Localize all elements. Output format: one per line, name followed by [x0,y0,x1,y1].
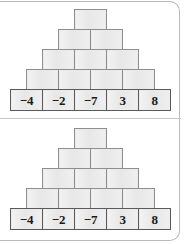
pyramid-1-row-1 [0,9,181,30]
exercise-panel-1: −4 −2 −7 3 8 [0,0,181,118]
pyramid-base-cell[interactable]: 3 [106,208,139,230]
pyramid-cell[interactable] [26,69,59,91]
pyramid-cell[interactable] [58,29,91,51]
pyramid-base-cell-value: 3 [119,213,125,226]
pyramid-cell[interactable] [122,69,155,91]
pyramid-cell[interactable] [90,69,123,91]
pyramid-base-cell[interactable]: −2 [42,208,75,230]
pyramid-cell[interactable] [42,168,75,190]
pyramid-cell[interactable] [74,128,107,150]
pyramid-cell[interactable] [58,148,91,170]
pyramid-cell[interactable] [74,168,107,190]
number-pyramid-2: −4 −2 −7 3 8 [0,119,181,237]
pyramid-base-cell[interactable]: 8 [138,89,171,111]
pyramid-base-cell-value: 8 [151,94,157,107]
pyramid-2-row-4 [0,188,181,209]
pyramid-base-cell-value: −2 [52,213,65,226]
pyramid-1-row-2 [0,29,181,50]
pyramid-cell[interactable] [106,49,139,71]
pyramid-2-row-2 [0,148,181,169]
pyramid-base-cell[interactable]: −2 [42,89,75,111]
pyramid-cell[interactable] [106,168,139,190]
pyramid-cell[interactable] [26,188,59,210]
pyramid-1-row-3 [0,49,181,70]
pyramid-cell[interactable] [90,29,123,51]
pyramid-base-cell-value: −7 [84,94,97,107]
pyramid-base-cell[interactable]: 8 [138,208,171,230]
pyramid-cell[interactable] [90,188,123,210]
pyramid-base-cell[interactable]: −4 [10,208,43,230]
pyramid-base-cell[interactable]: −7 [74,208,107,230]
pyramid-1-row-4 [0,69,181,90]
pyramid-cell[interactable] [90,148,123,170]
pyramid-2-row-1 [0,128,181,149]
pyramid-base-cell-value: −4 [20,94,33,107]
pyramid-cell[interactable] [42,49,75,71]
pyramid-base-cell-value: 3 [119,94,125,107]
exercise-panel-2: −4 −2 −7 3 8 [0,119,181,237]
pyramid-cell[interactable] [74,49,107,71]
pyramid-base-cell[interactable]: −7 [74,89,107,111]
pyramid-base-cell-value: −4 [20,213,33,226]
number-pyramid-1: −4 −2 −7 3 8 [0,0,181,118]
pyramid-base-cell-value: −7 [84,213,97,226]
pyramid-cell[interactable] [74,9,107,31]
pyramid-cell[interactable] [122,188,155,210]
pyramid-base-cell[interactable]: 3 [106,89,139,111]
pyramid-1-base-row: −4 −2 −7 3 8 [0,89,181,110]
pyramid-base-cell-value: 8 [151,213,157,226]
pyramid-cell[interactable] [58,69,91,91]
pyramid-cell[interactable] [58,188,91,210]
pyramid-2-row-3 [0,168,181,189]
pyramid-base-cell-value: −2 [52,94,65,107]
pyramid-2-base-row: −4 −2 −7 3 8 [0,208,181,229]
pyramid-base-cell[interactable]: −4 [10,89,43,111]
